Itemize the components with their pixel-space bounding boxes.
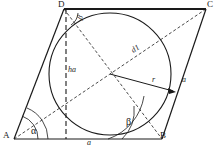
angle-beta-label: β [126, 117, 131, 127]
radius-arrowhead [168, 88, 176, 94]
side-bc [162, 9, 206, 139]
angle-alpha-label: α [31, 126, 36, 136]
side-bc-label: a [182, 76, 186, 84]
side-ab-label: a [87, 139, 91, 147]
geometry-diagram: A B C D a a ha r d1 α β β [0, 0, 220, 152]
vertex-label-a: A [3, 131, 10, 140]
side-da [14, 9, 64, 139]
radius-label: r [152, 76, 155, 84]
height-label: ha [68, 66, 76, 74]
vertex-label-d: D [58, 0, 65, 9]
radius-line [110, 74, 173, 91]
vertex-label-c: C [207, 0, 213, 9]
diagonal-db [64, 9, 162, 139]
vertex-label-b: B [160, 131, 166, 140]
